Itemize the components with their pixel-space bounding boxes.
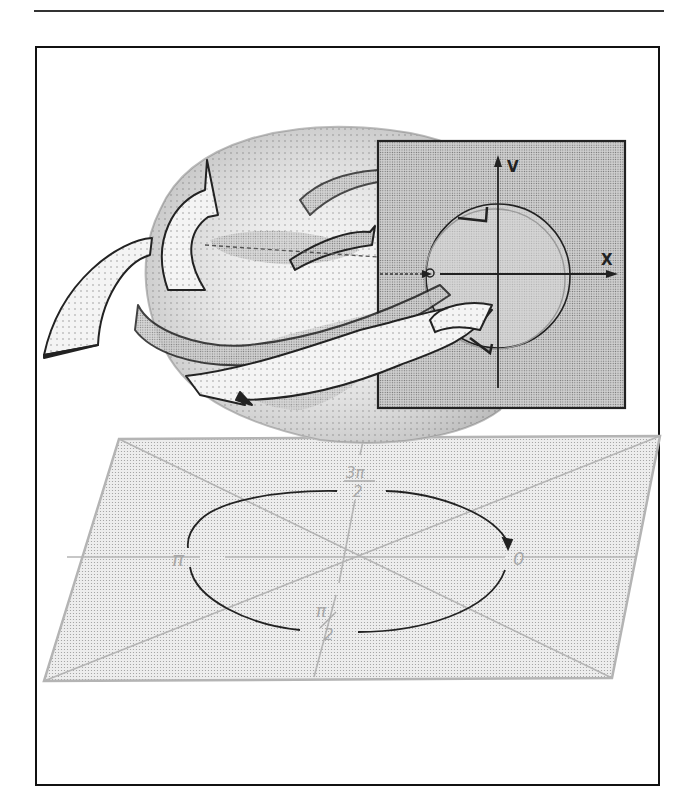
v-axis-label: V bbox=[507, 158, 519, 176]
x-axis-label: X bbox=[601, 251, 613, 269]
label-pi: π bbox=[172, 547, 185, 571]
svg-text:2: 2 bbox=[353, 483, 363, 501]
label-zero: 0 bbox=[513, 548, 524, 569]
svg-text:π: π bbox=[316, 601, 327, 621]
svg-text:3π: 3π bbox=[346, 464, 366, 482]
incoming-flow-arrow-icon bbox=[44, 238, 152, 355]
svg-text:2: 2 bbox=[324, 626, 334, 644]
phase-plane-inset: V X bbox=[378, 141, 625, 408]
